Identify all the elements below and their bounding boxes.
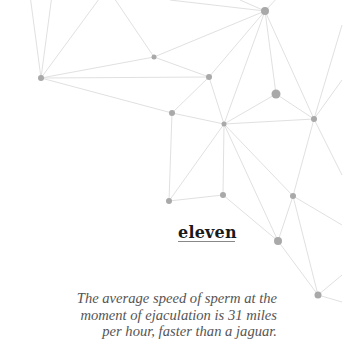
network-node bbox=[166, 198, 172, 204]
network-node bbox=[261, 7, 269, 15]
network-lines bbox=[30, 0, 342, 302]
fact-line: The average speed of sperm at the bbox=[60, 290, 277, 307]
network-node bbox=[169, 110, 175, 116]
network-node bbox=[206, 74, 212, 80]
network-node bbox=[152, 55, 157, 60]
network-node bbox=[272, 90, 281, 99]
network-node bbox=[220, 192, 226, 198]
fact-line: moment of ejaculation is 31 miles bbox=[60, 307, 277, 324]
network-node bbox=[290, 193, 296, 199]
fact-line: per hour, faster than a jaguar. bbox=[60, 323, 277, 340]
network-node bbox=[38, 75, 44, 81]
network-node bbox=[222, 122, 227, 127]
title-underline bbox=[178, 241, 235, 242]
network-nodes bbox=[38, 7, 322, 299]
fact-text: The average speed of sperm at the moment… bbox=[60, 290, 277, 340]
network-node bbox=[274, 237, 282, 245]
network-node bbox=[315, 292, 322, 299]
number-word-title: eleven bbox=[178, 223, 234, 242]
network-node bbox=[311, 116, 317, 122]
